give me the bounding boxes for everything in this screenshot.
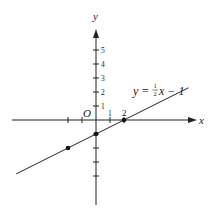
function-line-segment <box>16 88 188 174</box>
function-line <box>16 88 188 174</box>
origin-label: O <box>83 107 91 119</box>
y-tick-labels: 12345 <box>101 46 105 111</box>
x-axis-label: x <box>198 114 204 126</box>
equation-label: y = 1 2 x − 1 <box>132 82 184 98</box>
fraction-denominator: 2 <box>154 90 157 97</box>
y-tick-label: 4 <box>101 60 105 69</box>
x-axis-arrow-icon <box>188 117 197 123</box>
y-tick-label: 3 <box>101 74 105 83</box>
x-tick-label: 1 <box>108 109 112 118</box>
coordinate-plane: y x O 12345 12 y = 1 2 x − 1 <box>0 0 210 217</box>
y-tick-label: 2 <box>101 88 105 97</box>
point-marker <box>66 146 71 151</box>
fraction-numerator: 1 <box>154 82 157 89</box>
point-marker <box>122 118 127 123</box>
axes <box>12 29 197 205</box>
y-axis-arrow-icon <box>93 29 99 38</box>
equation-prefix: y = <box>132 84 149 98</box>
equation-suffix: x − 1 <box>158 84 184 98</box>
y-tick-label: 5 <box>101 46 105 55</box>
y-tick-label: 1 <box>101 102 105 111</box>
point-marker <box>94 132 99 137</box>
x-tick-labels: 12 <box>108 108 127 118</box>
x-tick-label: 2 <box>122 108 127 118</box>
y-axis-label: y <box>92 10 98 22</box>
